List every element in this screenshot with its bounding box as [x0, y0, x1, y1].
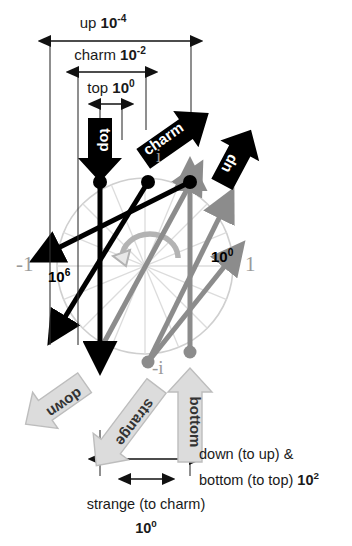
axis-label-one: 1 — [245, 254, 256, 275]
block-arrow-bottom-label: bottom — [187, 397, 204, 448]
footnote-strange-line1: strange (to charm) — [87, 497, 205, 512]
axis-label-i: i — [156, 146, 161, 165]
block-arrow-down: down — [13, 365, 97, 442]
footnote-down-bottom-line2: bottom (to top) 102 — [199, 471, 319, 487]
dim-label-top: top 100 — [87, 79, 134, 95]
footnote-strange-value: 100 — [135, 519, 157, 535]
dim-label-up: up 10-4 — [80, 14, 127, 30]
block-arrow-strange: strange — [79, 373, 174, 479]
dim-label-charm: charm 10-2 — [74, 46, 146, 62]
footnote-down-bottom-line1: down (to up) & — [199, 447, 293, 462]
figure-canvas: top charm up down strange bottom — [0, 0, 352, 546]
axis-label-minus-one: -1 — [16, 254, 34, 275]
magnitude-label-left: 106 — [48, 268, 70, 284]
magnitude-label-right: 100 — [211, 248, 233, 264]
axis-label-minus-i: -i — [152, 358, 164, 377]
